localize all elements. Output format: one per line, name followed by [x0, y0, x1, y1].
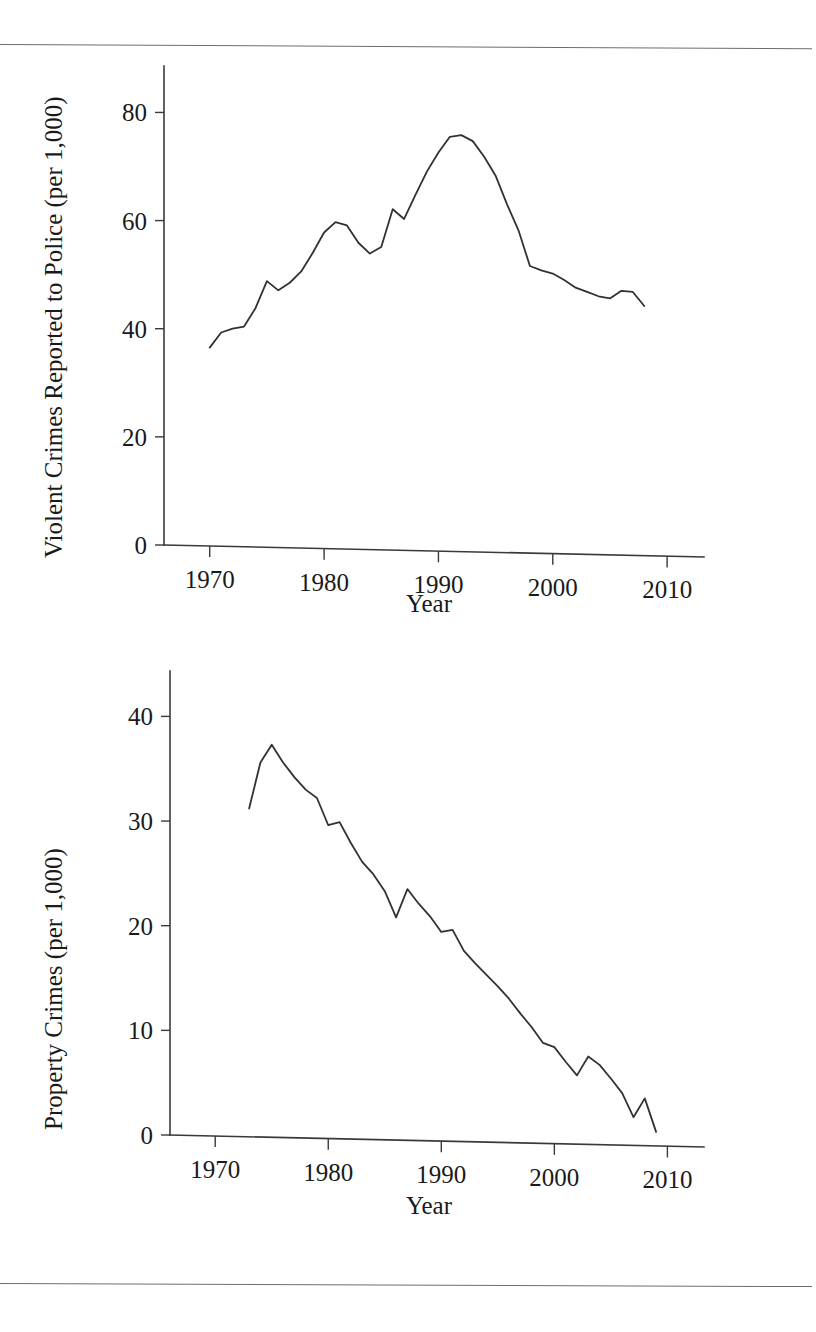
x-tick-label: 1970 [185, 566, 235, 593]
y-tick-label: 0 [141, 1122, 154, 1149]
page-rule-top [0, 44, 812, 49]
x-tick-label: 1980 [303, 1159, 353, 1186]
y-tick-label: 0 [135, 532, 148, 559]
y-tick-label: 10 [128, 1017, 153, 1044]
data-series-line [249, 745, 656, 1132]
violent-crimes-figure: 02040608019701980199020002010 Violent Cr… [0, 60, 808, 640]
y-tick-label: 60 [122, 208, 147, 235]
violent-crimes-plot: 02040608019701980199020002010 [0, 60, 808, 640]
y-tick-label: 80 [122, 99, 147, 126]
data-series-line [210, 135, 645, 348]
y-tick-label: 30 [128, 808, 153, 835]
violent-y-axis-title: Violent Crimes Reported to Police (per 1… [40, 96, 68, 558]
x-tick-label: 1970 [190, 1156, 240, 1183]
y-tick-label: 40 [128, 703, 153, 730]
x-tick-label: 2010 [642, 1166, 692, 1193]
property-y-axis-title: Property Crimes (per 1,000) [40, 848, 68, 1130]
y-tick-label: 20 [128, 913, 153, 940]
y-tick-label: 40 [122, 316, 147, 343]
property-crimes-plot: 01020304019701980199020002010 [0, 660, 808, 1240]
y-tick-label: 20 [122, 424, 147, 451]
violent-x-axis-title: Year [25, 590, 816, 618]
x-tick-label: 1990 [416, 1161, 466, 1188]
property-x-axis-title: Year [25, 1192, 816, 1220]
x-tick-label: 2000 [529, 1164, 579, 1191]
page-rule-bottom [0, 1283, 812, 1287]
property-crimes-figure: 01020304019701980199020002010 Property C… [0, 660, 808, 1240]
